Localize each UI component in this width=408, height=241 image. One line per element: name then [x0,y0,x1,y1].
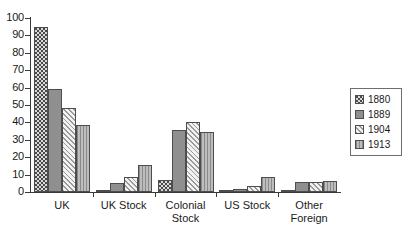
bar-us-stock-1889 [233,189,247,192]
bar-colonial-stock-1889 [172,130,186,192]
legend-item-1889[interactable]: 1889 [355,108,397,121]
bar-colonial-stock-1913 [200,132,214,192]
legend-label: 1913 [368,140,390,150]
bar-other-foreign-1880 [281,190,295,192]
y-axis-tick-label: 60 [0,82,24,93]
y-axis-tick [25,192,30,193]
y-axis-tick [25,175,30,176]
legend: 1880188919041913 [350,88,402,156]
y-axis-tick [25,105,30,106]
x-axis-tick [216,192,217,197]
y-axis-tick [25,88,30,89]
x-axis-label-uk: UK [31,199,93,212]
y-axis-tick-label: 80 [0,47,24,58]
y-axis-tick [25,18,30,19]
y-axis-tick-label: 100 [0,12,24,23]
legend-item-1913[interactable]: 1913 [355,138,397,151]
bar-us-stock-1904 [247,186,261,192]
legend-swatch-icon-1904 [355,125,364,134]
y-axis-tick-label: 20 [0,151,24,162]
x-axis-label-other-foreign: Other Foreign [278,199,340,225]
legend-item-1880[interactable]: 1880 [355,93,397,106]
bar-colonial-stock-1904 [186,122,200,192]
y-axis-tick [25,157,30,158]
bar-uk-stock-1880 [96,190,110,192]
y-axis-tick [25,70,30,71]
x-axis-label-uk-stock: UK Stock [93,199,155,212]
bar-us-stock-1880 [219,190,233,192]
bar-uk-1889 [48,89,62,192]
y-axis-tick-label: 40 [0,116,24,127]
bar-uk-1913 [76,125,90,192]
bar-chart: 0102030405060708090100 UKUK StockColonia… [0,0,408,241]
legend-label: 1904 [368,125,390,135]
bar-uk-stock-1904 [124,177,138,192]
y-axis-tick [25,122,30,123]
bar-group [219,18,275,192]
x-axis-tick [278,192,279,197]
y-axis-tick-label: 50 [0,99,24,110]
bar-colonial-stock-1880 [158,180,172,192]
bar-group [281,18,337,192]
legend-swatch-icon-1889 [355,110,364,119]
legend-swatch-icon-1880 [355,95,364,104]
bar-group [158,18,214,192]
y-axis-tick-label: 90 [0,29,24,40]
x-axis-tick [93,192,94,197]
plot-area [31,18,340,192]
bar-group [96,18,152,192]
bar-uk-1904 [62,108,76,192]
bar-uk-stock-1889 [110,183,124,192]
bar-other-foreign-1913 [323,181,337,192]
bar-other-foreign-1904 [309,182,323,192]
legend-label: 1889 [368,110,390,120]
x-axis-line [30,192,341,193]
legend-label: 1880 [368,95,390,105]
legend-item-1904[interactable]: 1904 [355,123,397,136]
bar-group [34,18,90,192]
y-axis-tick-label: 30 [0,134,24,145]
y-axis-tick-label: 0 [0,186,24,197]
y-axis-labels: 0102030405060708090100 [0,0,24,241]
y-axis-tick-label: 10 [0,169,24,180]
x-axis-label-us-stock: US Stock [216,199,278,212]
y-axis-tick [25,140,30,141]
y-axis-tick [25,35,30,36]
y-axis-tick [25,53,30,54]
bar-uk-1880 [34,27,48,192]
bar-other-foreign-1889 [295,182,309,192]
bar-uk-stock-1913 [138,165,152,192]
bar-us-stock-1913 [261,177,275,192]
legend-swatch-icon-1913 [355,140,364,149]
x-axis-label-colonial-stock: Colonial Stock [155,199,217,225]
x-axis-tick [155,192,156,197]
y-axis-tick-label: 70 [0,64,24,75]
